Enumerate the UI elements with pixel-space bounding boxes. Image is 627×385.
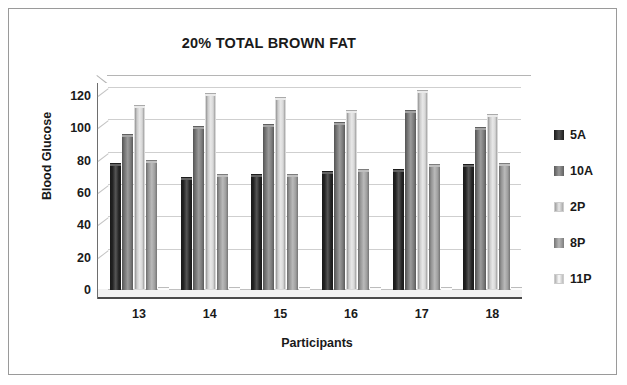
bar-10A-17[interactable] [405,111,416,291]
bar-2P-14[interactable] [205,94,216,290]
bar-8P-18[interactable] [499,164,510,290]
bar-5A-13[interactable] [110,164,121,290]
plot-area: 020406080100120 131415161718 [97,75,531,301]
chart-title: 20% TOTAL BROWN FAT [9,35,529,51]
bar-top-cap [299,287,310,290]
bar-body [263,125,274,290]
legend-item-5A[interactable]: 5A [554,117,624,153]
bar-top-cap [122,134,133,137]
bar-2P-18[interactable] [487,115,498,290]
bar-8P-16[interactable] [358,170,369,290]
bar-group-15 [251,83,311,290]
bar-body [122,135,133,290]
x-axis-line [98,297,522,299]
x-tick-label-14: 14 [180,307,240,321]
legend-item-2P[interactable]: 2P [554,189,624,225]
bar-top-cap [334,122,345,125]
bar-11P-18[interactable] [511,288,522,290]
legend-label: 8P [570,236,585,250]
bar-body [287,175,298,290]
bar-body [358,170,369,290]
plot-canvas: 020406080100120 [97,83,521,299]
bar-body [134,106,145,290]
bar-5A-17[interactable] [393,170,404,290]
bar-11P-15[interactable] [299,288,310,290]
bar-body [334,123,345,290]
x-tick-label-13: 13 [109,307,169,321]
bar-top-cap [146,160,157,163]
bar-2P-13[interactable] [134,106,145,290]
bar-8P-14[interactable] [217,175,228,290]
bar-top-cap [417,90,428,93]
bar-body [193,127,204,290]
bar-11P-13[interactable] [158,288,169,290]
bar-group-16 [322,83,382,290]
bar-11P-16[interactable] [370,288,381,290]
bar-body [405,111,416,291]
bar-8P-13[interactable] [146,161,157,290]
bar-top-cap [287,174,298,177]
legend-label: 10A [570,164,593,178]
legend-swatch-2P [554,202,564,212]
bar-group-14 [181,83,241,290]
bar-10A-15[interactable] [263,125,274,290]
bar-top-cap [405,110,416,113]
bar-top-cap [441,287,452,290]
bar-top-cap [134,105,145,108]
y-tick-label: 20 [77,251,91,265]
legend-swatch-10A [554,166,564,176]
figure-frame: 20% TOTAL BROWN FAT Blood Glucose Partic… [8,8,617,375]
bar-top-cap [487,114,498,117]
bar-5A-14[interactable] [181,178,192,290]
bar-top-cap [217,174,228,177]
bar-2P-17[interactable] [417,91,428,290]
bar-body [251,175,262,290]
bar-11P-14[interactable] [229,288,240,290]
legend-item-11P[interactable]: 11P [554,261,624,297]
bar-5A-16[interactable] [322,172,333,290]
chart-screenshot: 20% TOTAL BROWN FAT Blood Glucose Partic… [0,0,627,385]
bar-5A-15[interactable] [251,175,262,290]
legend-item-10A[interactable]: 10A [554,153,624,189]
bar-10A-18[interactable] [475,128,486,290]
bar-top-cap [181,177,192,180]
bar-top-cap [358,169,369,172]
bar-body [110,164,121,290]
bar-group-18 [463,83,523,290]
bar-11P-17[interactable] [441,288,452,290]
bar-8P-15[interactable] [287,175,298,290]
bar-top-cap [263,124,274,127]
bar-body [181,178,192,290]
bar-top-cap [193,126,204,129]
y-axis-title: Blood Glucose [40,96,54,216]
bar-10A-13[interactable] [122,135,133,290]
bar-top-cap [229,287,240,290]
bar-top-cap [475,127,486,130]
bar-body [217,175,228,290]
bar-top-cap [429,164,440,167]
y-tick-label: 100 [70,121,91,135]
bar-body [322,172,333,290]
x-tick-label-18: 18 [462,307,522,321]
bar-body [417,91,428,290]
bar-top-cap [275,97,286,100]
bar-body [429,165,440,290]
bar-groups [98,83,521,299]
y-tick-label: 80 [77,154,91,168]
bar-2P-15[interactable] [275,98,286,290]
bar-8P-17[interactable] [429,165,440,290]
bar-group-17 [393,83,453,290]
bar-top-cap [370,287,381,290]
bar-10A-14[interactable] [193,127,204,290]
legend-swatch-5A [554,130,564,140]
legend-item-8P[interactable]: 8P [554,225,624,261]
bar-body [205,94,216,290]
x-axis-title: Participants [97,336,537,350]
legend: 5A10A2P8P11P [554,117,624,297]
bar-body [487,115,498,290]
bar-2P-16[interactable] [346,111,357,291]
bar-top-cap [158,287,169,290]
bar-10A-16[interactable] [334,123,345,290]
x-tick-label-17: 17 [392,307,452,321]
bar-5A-18[interactable] [463,165,474,290]
